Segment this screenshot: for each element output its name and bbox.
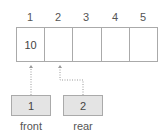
pointer-arrows: [0, 0, 166, 138]
arrow-head-icon: [58, 65, 62, 68]
rear-pointer-box: 2: [63, 95, 103, 116]
rear-label: rear: [63, 120, 103, 132]
front-pointer-box: 1: [11, 95, 51, 116]
arrow-head-icon: [29, 65, 33, 68]
front-label: front: [11, 120, 51, 132]
